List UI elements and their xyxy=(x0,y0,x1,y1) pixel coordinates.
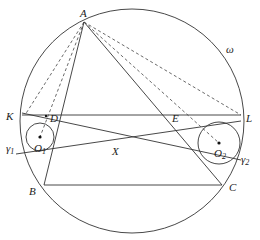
segment-AB xyxy=(44,22,84,185)
label-D: D xyxy=(49,112,58,124)
label-C: C xyxy=(229,181,237,193)
label-L: L xyxy=(245,112,252,124)
label-K: K xyxy=(5,110,14,122)
geometry-diagram: A ω K D E L γ1 O1 X O2 γ2 B C xyxy=(0,0,260,240)
dashed-AO1 xyxy=(40,22,84,137)
label-E: E xyxy=(171,112,179,124)
label-B: B xyxy=(29,185,36,197)
point-D xyxy=(45,115,47,117)
label-gamma1: γ1 xyxy=(6,142,14,156)
O2-letter: O xyxy=(214,147,222,159)
dashed-AK xyxy=(25,22,84,115)
point-O2 xyxy=(217,141,220,144)
segment-AC xyxy=(84,22,222,185)
label-A: A xyxy=(79,7,87,19)
label-gamma2: γ2 xyxy=(241,153,249,167)
gamma2-sub: 2 xyxy=(245,158,249,167)
label-O1: O1 xyxy=(34,142,46,156)
label-omega: ω xyxy=(226,43,234,55)
point-O1 xyxy=(38,135,41,138)
label-O2: O2 xyxy=(214,147,226,161)
O1-letter: O xyxy=(34,142,42,154)
dashed-AL xyxy=(84,22,241,115)
gamma1-sub: 1 xyxy=(10,147,14,156)
label-X: X xyxy=(111,145,120,157)
dashed-AO2 xyxy=(84,22,219,143)
O1-sub: 1 xyxy=(42,147,46,156)
O2-sub: 2 xyxy=(222,152,226,161)
